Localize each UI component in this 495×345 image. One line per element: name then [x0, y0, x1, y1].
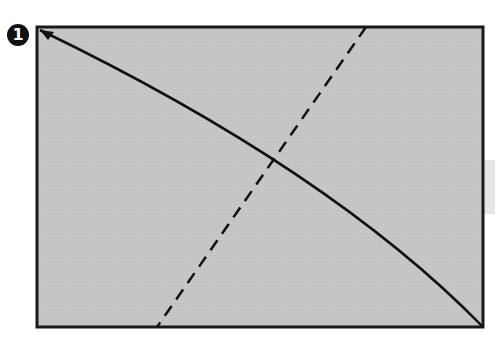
- origami-diagram: [0, 0, 495, 345]
- step-number-badge: 1: [7, 24, 29, 46]
